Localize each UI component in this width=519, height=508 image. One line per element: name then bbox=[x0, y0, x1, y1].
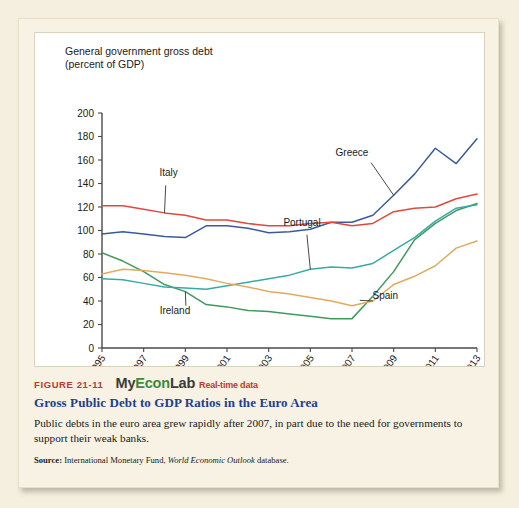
y-axis-tick-label: 60 bbox=[83, 272, 95, 283]
x-axis-tick-label: 2009 bbox=[378, 352, 400, 366]
y-axis-tick-label: 200 bbox=[77, 108, 94, 119]
series-label-ireland: Ireland bbox=[160, 305, 191, 316]
x-axis-tick-label: 2007 bbox=[336, 352, 358, 366]
y-axis-tick-label: 120 bbox=[77, 202, 94, 213]
x-axis-tick-label: 1997 bbox=[128, 352, 150, 366]
x-axis-tick-label: 2013 bbox=[461, 352, 483, 366]
figure-source: Source: International Monetary Fund, Wor… bbox=[34, 455, 486, 465]
logo-part-lab: Lab bbox=[170, 375, 195, 391]
x-axis-tick-label: 2003 bbox=[253, 352, 275, 366]
series-leader-italy bbox=[165, 185, 166, 212]
source-post: database. bbox=[257, 455, 289, 465]
series-leader-ireland bbox=[185, 292, 186, 306]
series-label-spain: Spain bbox=[373, 290, 399, 301]
figure-number: FIGURE 21-11 bbox=[34, 379, 104, 390]
logo-part-econ: Econ bbox=[135, 375, 170, 391]
figure-body-text: Public debts in the euro area grew rapid… bbox=[34, 416, 486, 446]
y-axis-tick-label: 100 bbox=[77, 225, 94, 236]
logo-part-my: My bbox=[116, 375, 136, 391]
x-axis-tick-label: 1999 bbox=[169, 352, 191, 366]
x-axis-tick-label: 2001 bbox=[211, 352, 233, 366]
x-axis-tick-label: 2011 bbox=[420, 352, 442, 366]
series-label-portugal: Portugal bbox=[283, 217, 320, 228]
series-leader-spain bbox=[360, 300, 373, 301]
x-axis-tick-label: 2005 bbox=[294, 352, 316, 366]
series-leader-greece bbox=[371, 163, 394, 196]
figure-card: General government gross debt (percent o… bbox=[18, 18, 499, 488]
series-line-spain bbox=[102, 241, 477, 306]
myeconlab-logo: MyEconLabReal-time data bbox=[116, 375, 258, 391]
y-axis-tick-label: 160 bbox=[77, 155, 94, 166]
y-axis-tick-label: 20 bbox=[83, 319, 95, 330]
realtime-data-badge: Real-time data bbox=[199, 380, 258, 390]
series-label-greece: Greece bbox=[336, 147, 369, 158]
y-axis-tick-label: 80 bbox=[83, 249, 95, 260]
source-pre: International Monetary Fund, bbox=[64, 455, 165, 465]
y-axis-tick-label: 40 bbox=[83, 296, 95, 307]
figure-title: Gross Public Debt to GDP Ratios in the E… bbox=[34, 395, 486, 411]
series-leader-portugal bbox=[307, 235, 310, 270]
chart-panel: General government gross debt (percent o… bbox=[34, 32, 485, 367]
x-axis-tick-label: 1995 bbox=[86, 352, 108, 366]
y-axis-tick-label: 0 bbox=[88, 343, 94, 354]
line-chart: 0204060801001201401601802001995199719992… bbox=[35, 33, 484, 366]
source-label: Source: bbox=[34, 455, 62, 465]
y-axis-tick-label: 140 bbox=[77, 178, 94, 189]
y-axis-tick-label: 180 bbox=[77, 131, 94, 142]
figure-caption: FIGURE 21-11 MyEconLabReal-time data Gro… bbox=[34, 375, 486, 465]
series-label-italy: Italy bbox=[159, 167, 177, 178]
source-publication: World Economic Outlook bbox=[168, 455, 255, 465]
